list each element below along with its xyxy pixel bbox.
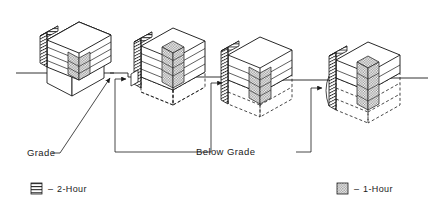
- two-hour-label: 2-Hour: [57, 184, 87, 194]
- building-1: [40, 22, 111, 96]
- below-grade-annotation: [115, 79, 322, 152]
- two-hour-swatch-icon: [31, 183, 42, 194]
- below-grade-leader-3: [311, 88, 322, 152]
- one-hour-swatch-icon: [337, 183, 348, 194]
- one-hour-label: 1-Hour: [363, 184, 393, 194]
- diagram-canvas: Grade Below Grade – 2-Hour – 1-Hour: [0, 0, 442, 208]
- building-2-one-hour-column: [162, 41, 184, 88]
- building-4-one-hour-column: [357, 56, 379, 110]
- legend-item-1-hour: – 1-Hour: [337, 183, 393, 194]
- grade-label: Grade: [27, 147, 55, 158]
- below-grade-leader-1: [115, 79, 126, 152]
- building-2: [131, 28, 205, 105]
- building-4: [326, 42, 400, 123]
- below-grade-label: Below Grade: [196, 146, 255, 157]
- legend-item-2-hour: – 2-Hour: [31, 183, 87, 194]
- below-grade-leader-2: [211, 83, 222, 152]
- building-3: [221, 37, 292, 117]
- one-hour-dash: –: [354, 184, 359, 194]
- two-hour-dash: –: [48, 184, 53, 194]
